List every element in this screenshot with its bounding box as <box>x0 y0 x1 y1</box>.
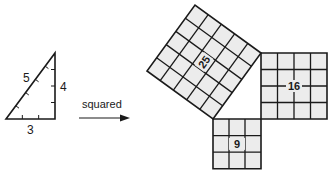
squares-group: 91625 <box>147 5 327 169</box>
triangle-ticks <box>16 66 55 119</box>
right-triangle: 5 4 3 <box>6 53 67 137</box>
square-on-base: 9 <box>213 119 261 169</box>
area-label: 16 <box>288 80 300 92</box>
area-label: 9 <box>234 138 240 150</box>
square-on-vertical-leg: 16 <box>261 53 327 119</box>
arrow-label: squared <box>82 98 122 110</box>
unit-tick <box>26 93 29 95</box>
unit-tick <box>16 106 19 108</box>
squared-arrow: squared <box>79 98 130 122</box>
triangle-outline <box>6 53 55 119</box>
unit-tick <box>45 66 48 68</box>
pythagorean-diagram: 5 4 3 squared 91625 <box>0 0 329 176</box>
vertical-leg-label: 4 <box>60 80 67 94</box>
unit-tick <box>35 79 38 81</box>
square-on-hypotenuse: 25 <box>147 5 261 119</box>
arrow-head-icon <box>120 115 130 122</box>
base-label: 3 <box>27 123 34 137</box>
hypotenuse-label: 5 <box>23 71 30 85</box>
